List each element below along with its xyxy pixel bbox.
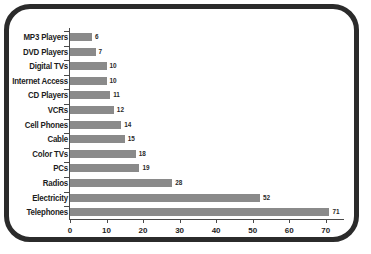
category-label: CD Players: [0, 88, 68, 102]
bar-value-label: 11: [113, 89, 120, 101]
category-tick: [64, 119, 69, 131]
bar-value-label: 28: [175, 177, 182, 189]
bar: [70, 150, 136, 158]
x-tick-label: 40: [201, 225, 231, 236]
x-tick-mark: [143, 219, 144, 223]
bar-value-label: 12: [117, 104, 124, 116]
category-tick: [64, 89, 69, 101]
bar-value-label: 19: [142, 162, 149, 174]
bar-row: Electricity52: [0, 191, 371, 205]
bar: [70, 121, 121, 129]
bar: [70, 164, 139, 172]
category-tick: [64, 192, 69, 204]
category-label: Electricity: [0, 191, 68, 205]
category-label: VCRs: [0, 103, 68, 117]
bar-value-label: 15: [128, 133, 135, 145]
category-label: Digital TVs: [0, 59, 68, 73]
category-tick: [64, 60, 69, 72]
x-tick-mark: [216, 219, 217, 223]
category-label: Telephones: [0, 205, 68, 219]
category-tick: [64, 31, 69, 43]
category-tick: [64, 46, 69, 58]
bar: [70, 106, 114, 114]
bar-value-label: 10: [110, 60, 117, 72]
x-tick-label: 70: [311, 225, 341, 236]
category-label: DVD Players: [0, 45, 68, 59]
bar: [70, 91, 110, 99]
x-tick-label: 30: [165, 225, 195, 236]
category-label: MP3 Players: [0, 30, 68, 44]
x-tick-label: 0: [55, 225, 85, 236]
x-tick-label: 50: [238, 225, 268, 236]
bar: [70, 48, 96, 56]
bar-row: Cable15: [0, 132, 371, 146]
bar-value-label: 6: [95, 31, 99, 43]
bar: [70, 179, 172, 187]
bar-row: VCRs12: [0, 103, 371, 117]
bar-row: DVD Players7: [0, 45, 371, 59]
bar: [70, 135, 125, 143]
bar: [70, 77, 107, 85]
bar-row: Internet Access10: [0, 74, 371, 88]
bar-row: Telephones71: [0, 205, 371, 219]
x-tick-label: 20: [128, 225, 158, 236]
x-tick-label: 60: [274, 225, 304, 236]
x-tick-mark: [180, 219, 181, 223]
category-label: Color TVs: [0, 147, 68, 161]
bar: [70, 33, 92, 41]
category-label: Cell Phones: [0, 118, 68, 132]
bar: [70, 194, 260, 202]
category-tick: [64, 206, 69, 218]
bar-value-label: 18: [139, 148, 146, 160]
x-tick-mark: [70, 219, 71, 223]
category-tick: [64, 104, 69, 116]
bar-row: PCs19: [0, 161, 371, 175]
x-tick-label: 10: [92, 225, 122, 236]
x-tick-mark: [326, 219, 327, 223]
bar-row: Digital TVs10: [0, 59, 371, 73]
bar: [70, 62, 107, 70]
x-tick-mark: [107, 219, 108, 223]
bar-value-label: 7: [99, 46, 103, 58]
bar-row: Color TVs18: [0, 147, 371, 161]
bar-value-label: 10: [110, 75, 117, 87]
category-label: Internet Access: [0, 74, 68, 88]
bar-chart: MP3 Players6DVD Players7Digital TVs10Int…: [0, 0, 371, 254]
category-label: PCs: [0, 161, 68, 175]
x-tick-mark: [289, 219, 290, 223]
bar: [70, 208, 329, 216]
bar-row: CD Players11: [0, 88, 371, 102]
category-tick: [64, 162, 69, 174]
category-tick: [64, 133, 69, 145]
x-tick-mark: [253, 219, 254, 223]
category-tick: [64, 177, 69, 189]
bar-value-label: 14: [124, 119, 131, 131]
bar-row: Radios28: [0, 176, 371, 190]
bar-value-label: 52: [263, 192, 270, 204]
category-tick: [64, 75, 69, 87]
category-tick: [64, 148, 69, 160]
bar-row: MP3 Players6: [0, 30, 371, 44]
category-label: Cable: [0, 132, 68, 146]
category-label: Radios: [0, 176, 68, 190]
bar-row: Cell Phones14: [0, 118, 371, 132]
bar-value-label: 71: [332, 206, 339, 218]
